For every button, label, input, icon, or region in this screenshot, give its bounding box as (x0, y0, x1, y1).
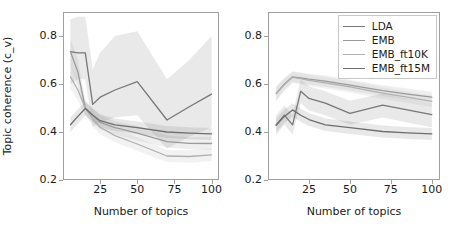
x-tick-mark (137, 180, 138, 184)
x-tick-label: 50 (117, 184, 157, 196)
y-tick-mark (59, 132, 63, 133)
x-tick-label: 75 (371, 184, 411, 196)
y-tick-label: 0.2 (23, 175, 57, 185)
x-tick-mark (309, 180, 310, 184)
y-tick-label: 0.4 (228, 127, 262, 137)
x-tick-mark (350, 180, 351, 184)
legend-line-swatch-icon (343, 26, 365, 27)
y-tick-label: 0.8 (23, 31, 57, 41)
x-tick-label: 75 (154, 184, 194, 196)
legend-item-label: EMB_ft10K (372, 47, 428, 61)
x-tick-mark (391, 180, 392, 184)
x-tick-label: 25 (289, 184, 329, 196)
legend-item-emb[interactable]: EMB (343, 33, 430, 47)
x-tick-mark (212, 180, 213, 184)
x-axis-label-right: Number of topics (268, 205, 440, 218)
x-tick-label: 100 (412, 184, 452, 196)
legend-line-swatch-icon (343, 40, 365, 41)
figure-container: Topic coherence (c_v) 0.80.60.40.2 25507… (0, 0, 453, 232)
legend-line-swatch-icon (343, 54, 365, 55)
y-tick-mark (264, 132, 268, 133)
legend-item-emb_ft15m[interactable]: EMB_ft15M (343, 61, 430, 75)
y-tick-label: 0.4 (23, 127, 57, 137)
x-tick-mark (174, 180, 175, 184)
y-tick-mark (264, 36, 268, 37)
y-tick-label: 0.6 (228, 79, 262, 89)
x-tick-mark (432, 180, 433, 184)
legend-line-swatch-icon (343, 68, 365, 69)
y-tick-mark (59, 180, 63, 181)
legend-item-label: EMB (372, 33, 395, 47)
y-tick-label: 0.8 (228, 31, 262, 41)
x-axis-label-left: Number of topics (63, 205, 219, 218)
chart-panel-right: LDAEMBEMB_ft10KEMB_ft15M (268, 12, 440, 180)
y-tick-mark (264, 180, 268, 181)
y-tick-label: 0.6 (23, 79, 57, 89)
y-tick-mark (264, 84, 268, 85)
legend-item-label: EMB_ft15M (372, 61, 430, 75)
legend-item-emb_ft10k[interactable]: EMB_ft10K (343, 47, 430, 61)
x-tick-label: 25 (80, 184, 120, 196)
y-tick-mark (59, 84, 63, 85)
y-tick-mark (59, 36, 63, 37)
chart-legend: LDAEMBEMB_ft10KEMB_ft15M (338, 15, 437, 79)
legend-item-lda[interactable]: LDA (343, 19, 430, 33)
x-tick-mark (100, 180, 101, 184)
plot-area-left (63, 12, 219, 180)
x-tick-label: 100 (192, 184, 232, 196)
legend-item-label: LDA (372, 19, 393, 33)
y-axis-label: Topic coherence (c_v) (0, 12, 16, 180)
y-axis-label-wrapper: Topic coherence (c_v) (6, 12, 22, 180)
x-tick-label: 50 (330, 184, 370, 196)
y-tick-label: 0.2 (228, 175, 262, 185)
chart-panel-left (63, 12, 219, 180)
